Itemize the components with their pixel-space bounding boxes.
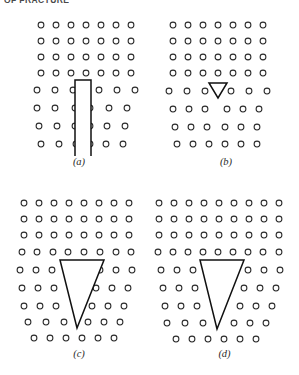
figure-page: OF FRACTURE [0,0,299,375]
figure-four-panels: (a) [0,6,299,375]
panel-d: (d) [152,188,297,374]
crack-triangle-c [60,260,104,328]
panel-a: (a) [8,8,150,184]
panel-c-label: (c) [8,348,150,359]
slit-defect-a [75,80,91,156]
panel-a-lattice [8,8,150,158]
panel-b-label: (b) [155,156,297,167]
panel-b-lattice [155,8,297,158]
crack-nucleus-triangle-b [209,83,227,98]
crack-triangle-d [200,260,244,329]
panel-c-lattice [8,188,150,348]
panel-d-lattice [152,188,297,348]
panel-d-label: (d) [152,348,297,359]
panel-a-label: (a) [8,156,150,167]
panel-b: (b) [155,8,297,184]
panel-c: (c) [8,188,150,374]
running-header: OF FRACTURE [4,0,69,3]
